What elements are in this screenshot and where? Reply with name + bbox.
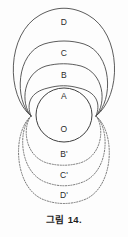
figure-container: D C B A O B' C' D' 그림 14. bbox=[0, 0, 128, 237]
label-A: A bbox=[61, 91, 67, 101]
figure-caption: 그림 14. bbox=[0, 212, 128, 226]
label-C: C bbox=[61, 48, 67, 58]
label-D-prime: D' bbox=[60, 190, 68, 200]
label-O: O bbox=[61, 124, 68, 134]
label-D: D bbox=[61, 17, 67, 27]
label-C-prime: C' bbox=[60, 170, 68, 180]
label-B: B bbox=[61, 70, 67, 80]
label-B-prime: B' bbox=[60, 149, 68, 159]
nested-circles-diagram: D C B A O B' C' D' bbox=[0, 0, 128, 237]
